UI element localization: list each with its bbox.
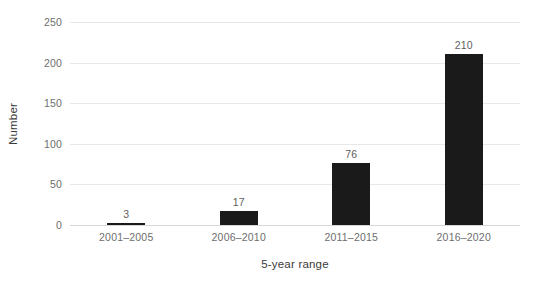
y-tick-label: 150	[44, 97, 62, 109]
bar-value-label: 3	[123, 208, 129, 220]
bar-value-label: 76	[345, 148, 357, 160]
x-tick-label: 2001–2005	[99, 231, 153, 243]
bar-series: 32001–2005172006–2010762011–20152102016–…	[70, 22, 520, 225]
bar-group[interactable]: 2102016–2020	[445, 22, 483, 225]
bar-value-label: 17	[233, 196, 245, 208]
bar[interactable]	[107, 223, 145, 226]
x-tick-label: 2016–2020	[437, 231, 491, 243]
y-tick-label: 50	[50, 178, 62, 190]
bar[interactable]	[220, 211, 258, 225]
plot-area: 050100150200250 32001–2005172006–2010762…	[70, 22, 520, 225]
y-tick-label: 0	[56, 219, 62, 231]
x-tick-label: 2006–2010	[212, 231, 266, 243]
bar-group[interactable]: 762011–2015	[332, 22, 370, 225]
bar-value-label: 210	[455, 39, 473, 51]
y-axis-title-label: Number	[7, 34, 19, 214]
y-tick-label: 100	[44, 138, 62, 150]
bar-chart: Number 050100150200250 32001–2005172006–…	[0, 0, 534, 284]
bar-group[interactable]: 32001–2005	[107, 22, 145, 225]
bar[interactable]	[445, 54, 483, 225]
y-tick-label: 200	[44, 57, 62, 69]
y-tick-label: 250	[44, 16, 62, 28]
bar[interactable]	[332, 163, 370, 225]
bar-group[interactable]: 172006–2010	[220, 22, 258, 225]
x-axis-title: 5-year range	[70, 258, 520, 270]
x-axis-baseline: 0	[70, 225, 520, 226]
x-tick-label: 2011–2015	[324, 231, 378, 243]
